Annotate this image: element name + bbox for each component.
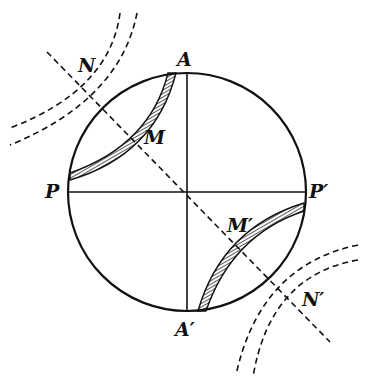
label-A-prime: A′ [173, 318, 195, 340]
label-M-prime: M′ [226, 214, 253, 236]
lower-right-dashed-curve-outer [236, 245, 358, 375]
diagram-canvas: A A′ P P′ M M′ N N′ [0, 0, 368, 383]
dashed-diagonal-NN [47, 52, 330, 342]
label-A: A [175, 48, 192, 70]
label-N: N [77, 54, 96, 76]
label-P-prime: P′ [308, 180, 328, 202]
label-M: M [143, 126, 166, 148]
label-N-prime: N′ [301, 288, 324, 310]
label-P: P [44, 180, 60, 202]
